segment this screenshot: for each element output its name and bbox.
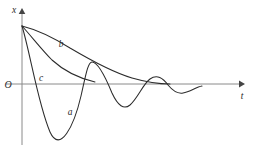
curve-b-label: b (59, 39, 64, 49)
x-axis-label: x (11, 5, 17, 15)
figure-canvas: x t O a b c (0, 0, 257, 149)
damped-oscillation-figure: x t O a b c (0, 0, 257, 149)
curve-b-path (22, 26, 170, 84)
t-axis-arrowhead (239, 81, 245, 88)
origin-label: O (4, 79, 11, 90)
t-axis-label: t (241, 91, 244, 101)
curve-c-label: c (39, 73, 44, 83)
curve-a-path (22, 26, 202, 140)
curve-a-label: a (68, 107, 73, 117)
x-axis-arrowhead (19, 8, 26, 14)
